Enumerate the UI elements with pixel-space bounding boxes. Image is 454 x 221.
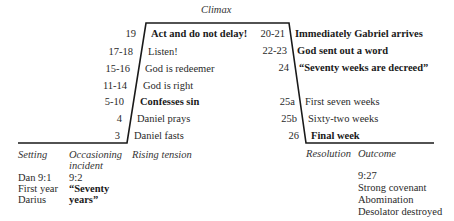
setting-detail: Darius: [18, 194, 46, 206]
plot-point: Daniel fasts: [134, 130, 184, 142]
plot-point: Immediately Gabriel arrives: [295, 28, 423, 40]
occasioning-quote-2: years”: [69, 194, 98, 206]
plot-point: God sent out a word: [297, 45, 388, 57]
stage-outcome: Outcome: [358, 148, 396, 160]
plot-point: God is redeemer: [145, 63, 214, 75]
verse-ref: 26: [259, 130, 299, 142]
plot-point: Final week: [311, 130, 360, 142]
plot-point: “Seventy weeks are decreed”: [299, 62, 428, 74]
verse-ref: 19: [96, 28, 136, 40]
plot-point: Sixty-two weeks: [308, 113, 378, 125]
verse-ref: 3: [80, 130, 120, 142]
plot-point: Confesses sin: [140, 96, 199, 108]
stage-rising: Rising tension: [132, 149, 192, 161]
plot-point: God is right: [143, 80, 193, 92]
outcome-detail: Strong covenant: [358, 182, 427, 194]
verse-ref: 25b: [257, 113, 297, 125]
outcome-detail: Abomination: [358, 194, 413, 206]
plot-point: Act and do not delay!: [151, 28, 247, 40]
plot-point: Daniel prays: [137, 113, 190, 125]
verse-ref: 20-21: [245, 28, 285, 40]
stage-setting: Setting: [18, 149, 47, 161]
verse-ref: 15-16: [90, 63, 130, 75]
stage-resolution: Resolution: [306, 148, 351, 160]
verse-ref: 4: [82, 113, 122, 125]
plot-point: First seven weeks: [305, 96, 380, 108]
verse-ref: 24: [249, 62, 289, 74]
plot-point: Listen!: [148, 46, 178, 58]
verse-ref: 11-14: [87, 80, 127, 92]
outcome-detail: 9:27: [358, 170, 377, 182]
outcome-detail: Desolator destroyed: [358, 206, 442, 218]
verse-ref: 25a: [255, 96, 295, 108]
verse-ref: 5-10: [84, 96, 124, 108]
verse-ref: 17-18: [93, 46, 133, 58]
stage-occasioning-2: incident: [69, 160, 103, 172]
climax-label: Climax: [201, 4, 231, 16]
verse-ref: 22-23: [247, 45, 287, 57]
